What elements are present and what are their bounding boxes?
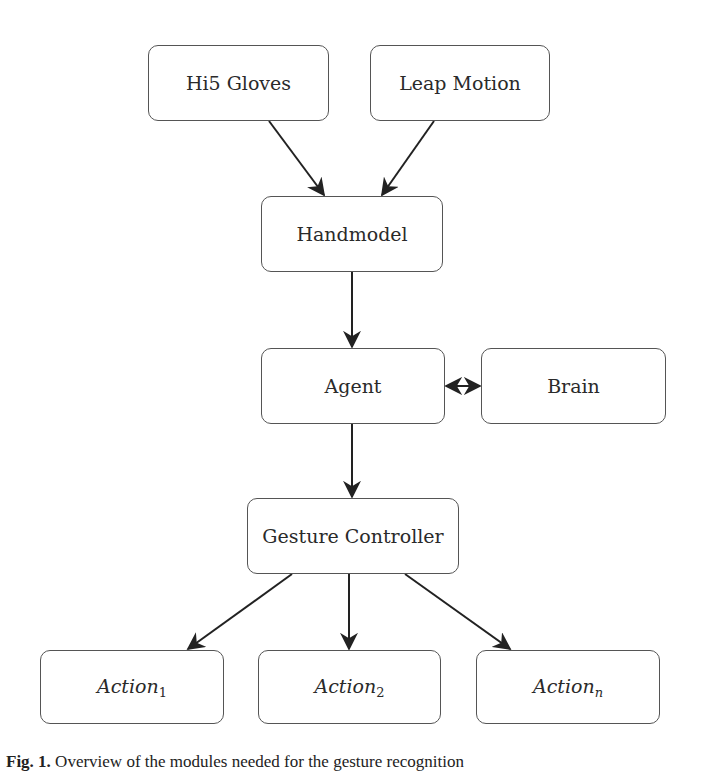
node-hi5-gloves: Hi5 Gloves <box>148 45 329 121</box>
node-agent: Agent <box>261 348 445 424</box>
node-action-1: Action1 <box>40 650 224 724</box>
node-label: Handmodel <box>296 223 407 245</box>
node-action-n: Actionn <box>476 650 660 724</box>
node-action-2: Action2 <box>258 650 441 724</box>
edge-hi5-to-handmodel <box>269 121 324 195</box>
caption-text: Overview of the modules needed for the g… <box>55 752 464 771</box>
node-label: Leap Motion <box>399 72 521 94</box>
node-label: Action1 <box>97 675 167 700</box>
edge-leap-to-handmodel <box>382 121 434 195</box>
node-brain: Brain <box>481 348 666 424</box>
edge-gesture-to-action1 <box>188 574 292 649</box>
node-label: Gesture Controller <box>262 525 443 547</box>
node-label: Hi5 Gloves <box>186 72 291 94</box>
node-leap-motion: Leap Motion <box>370 45 550 121</box>
subscript: n <box>595 685 603 700</box>
edge-gesture-to-actionn <box>405 574 510 649</box>
node-label: Actionn <box>533 675 603 700</box>
caption-prefix: Fig. 1. <box>6 752 51 771</box>
figure-caption: Fig. 1. Overview of the modules needed f… <box>6 752 464 772</box>
subscript: 1 <box>159 685 167 700</box>
subscript: 2 <box>376 685 384 700</box>
node-gesture-controller: Gesture Controller <box>247 498 459 574</box>
node-handmodel: Handmodel <box>261 196 443 272</box>
node-label: Brain <box>547 375 600 397</box>
node-label: Action2 <box>314 675 384 700</box>
node-label: Agent <box>325 375 382 397</box>
